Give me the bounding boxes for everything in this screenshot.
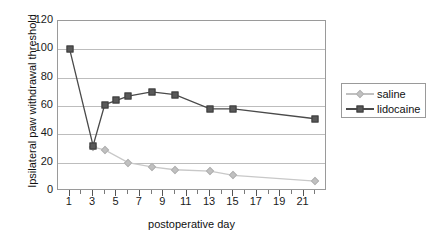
square-marker-icon — [357, 105, 364, 112]
legend-swatch-lidocaine — [346, 103, 374, 115]
data-point-lidocaine — [90, 142, 97, 149]
y-tick-label: 120 — [22, 14, 53, 25]
chart-figure: Ipsilateral paw withdrawal threshold 020… — [0, 0, 432, 249]
x-tick-label: 21 — [294, 196, 312, 207]
y-tick-label: 60 — [22, 99, 53, 110]
data-point-lidocaine — [148, 88, 155, 95]
x-axis-title: postoperative day — [57, 218, 326, 230]
data-point-lidocaine — [101, 101, 108, 108]
y-tick-label: 0 — [22, 184, 53, 195]
y-tick-label: 80 — [22, 71, 53, 82]
legend-label-lidocaine: lidocaine — [377, 103, 420, 115]
y-tick-label: 20 — [22, 156, 53, 167]
x-tick-label: 17 — [247, 196, 265, 207]
legend-item-saline[interactable]: saline — [346, 86, 406, 101]
x-tick-label: 1 — [60, 196, 78, 207]
data-point-lidocaine — [312, 115, 319, 122]
legend-swatch-saline — [346, 88, 374, 100]
y-tick-label: 40 — [22, 127, 53, 138]
legend-item-lidocaine[interactable]: lidocaine — [346, 101, 420, 116]
plot-area — [57, 20, 326, 190]
legend: saline lidocaine — [341, 83, 426, 118]
series-lines — [58, 21, 327, 191]
x-tick-label: 9 — [153, 196, 171, 207]
x-tick-label: 3 — [83, 196, 101, 207]
x-tick-label: 19 — [270, 196, 288, 207]
data-point-lidocaine — [125, 93, 132, 100]
diamond-marker-icon — [356, 89, 364, 97]
y-tick-label: 100 — [22, 42, 53, 53]
x-tick-label: 5 — [106, 196, 124, 207]
data-point-lidocaine — [171, 91, 178, 98]
legend-label-saline: saline — [377, 88, 406, 100]
x-tick-label: 7 — [130, 196, 148, 207]
x-tick-label: 13 — [200, 196, 218, 207]
data-point-lidocaine — [113, 97, 120, 104]
data-point-lidocaine — [207, 105, 214, 112]
data-point-lidocaine — [66, 46, 73, 53]
x-tick-label: 11 — [177, 196, 195, 207]
series-line-lidocaine — [70, 49, 316, 145]
x-tick-label: 15 — [223, 196, 241, 207]
data-point-lidocaine — [230, 105, 237, 112]
